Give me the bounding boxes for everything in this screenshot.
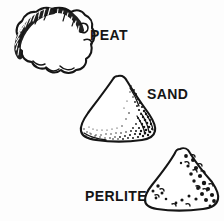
growing-media-figure: PEAT SAND PERLITE: [0, 0, 224, 221]
label-sand: SAND: [147, 86, 188, 102]
label-peat: PEAT: [90, 27, 128, 43]
label-perlite: PERLITE: [85, 188, 147, 204]
